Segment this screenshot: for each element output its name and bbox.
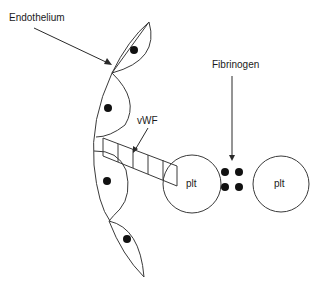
platelet-right-label: plt <box>274 178 285 189</box>
vwf-label: vWF <box>137 115 158 126</box>
platelet-right: plt <box>253 156 309 212</box>
nucleus-icon <box>130 46 138 54</box>
nucleus-icon <box>123 235 131 243</box>
vwf-arrow <box>133 128 148 153</box>
endothelial-cell-3 <box>94 151 128 221</box>
endothelial-cell-2 <box>96 73 130 137</box>
fibrinogen-label: Fibrinogen <box>212 59 259 70</box>
fibrinogen-arrow <box>229 76 235 161</box>
platelet-adhesion-diagram: Endothelium vWF <box>0 0 322 289</box>
nucleus-icon <box>103 177 111 185</box>
vwf-ladder <box>103 138 177 186</box>
endothelium-arrow <box>34 28 112 65</box>
endothelial-cell-4 <box>109 221 144 277</box>
nucleus-icon <box>104 104 112 112</box>
endothelium-label: Endothelium <box>9 12 65 23</box>
endothelial-cell-1 <box>112 22 151 73</box>
platelet-left-label: plt <box>186 178 197 189</box>
fibrinogen-dots <box>221 168 243 191</box>
